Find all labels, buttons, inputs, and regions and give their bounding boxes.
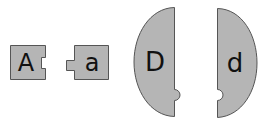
puzzle-piece-d: d <box>218 9 258 118</box>
puzzle-piece-A: A <box>11 46 46 80</box>
puzzle-diagram: A a D d <box>0 0 266 122</box>
puzzle-piece-D: D <box>134 8 180 117</box>
puzzle-piece-a: a <box>67 46 109 80</box>
piece-label-d: d <box>227 48 244 78</box>
piece-label-D: D <box>145 47 165 77</box>
piece-label-A: A <box>18 49 35 77</box>
piece-label-a: a <box>85 49 100 77</box>
